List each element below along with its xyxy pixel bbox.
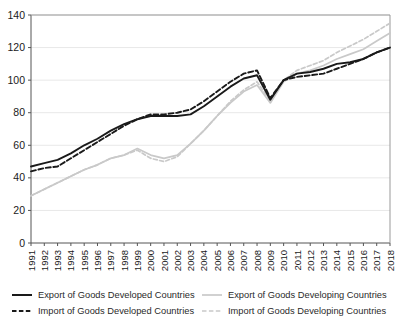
x-tick-label: 2017	[371, 250, 382, 271]
x-tick-label: 2003	[185, 250, 196, 271]
x-tick-label: 2008	[252, 250, 263, 271]
x-tick-label: 2011	[292, 250, 303, 270]
x-tick-label: 2001	[159, 250, 170, 271]
x-tick-label: 2016	[358, 250, 369, 271]
x-tick-label: 2010	[278, 250, 289, 271]
line-chart: 020406080100120140 199119921993199419951…	[0, 0, 398, 324]
legend-label: Export of Goods Developed Countries	[38, 290, 195, 300]
x-tick-label: 2018	[385, 250, 396, 271]
x-tick-label: 2009	[265, 250, 276, 271]
x-tick-label: 1996	[92, 250, 103, 271]
legend-label: Import of Goods Developed Countries	[38, 306, 194, 316]
y-tick-label: 140	[7, 9, 25, 21]
x-tick-label: 2015	[345, 250, 356, 271]
x-tick-label: 1995	[79, 250, 90, 271]
y-tick-label: 60	[13, 139, 25, 151]
x-tick-label: 2013	[318, 250, 329, 271]
y-tick-label: 40	[13, 171, 25, 183]
x-tick-label: 2012	[305, 250, 316, 271]
x-tick-label: 2000	[145, 250, 156, 271]
x-tick-label: 2007	[238, 250, 249, 271]
chart-background	[0, 0, 398, 324]
x-tick-label: 2005	[212, 250, 223, 271]
x-tick-label: 2002	[172, 250, 183, 271]
y-tick-label: 0	[19, 237, 25, 249]
legend-label: Import of Goods Developing Countries	[228, 306, 386, 316]
x-tick-label: 1993	[52, 250, 63, 271]
x-tick-label: 1992	[39, 250, 50, 271]
y-tick-label: 100	[7, 74, 25, 86]
x-tick-label: 1994	[65, 250, 76, 271]
y-tick-label: 20	[13, 204, 25, 216]
y-tick-label: 120	[7, 41, 25, 53]
x-tick-label: 1998	[119, 250, 130, 271]
legend-label: Export of Goods Developing Countries	[228, 290, 387, 300]
x-tick-label: 1999	[132, 250, 143, 271]
y-tick-label: 80	[13, 106, 25, 118]
x-tick-label: 1997	[105, 250, 116, 271]
x-tick-label: 2004	[198, 250, 209, 271]
x-tick-label: 2006	[225, 250, 236, 271]
x-tick-label: 1991	[26, 250, 37, 271]
chart-container: 020406080100120140 199119921993199419951…	[0, 0, 398, 324]
x-tick-label: 2014	[331, 250, 342, 271]
